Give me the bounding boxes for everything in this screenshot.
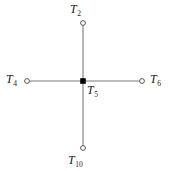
node-label-top-base: T	[70, 2, 77, 16]
node-marker-left	[25, 79, 30, 84]
node-marker-bottom	[81, 146, 86, 151]
node-label-bottom-base: T	[68, 153, 75, 167]
node-marker-group	[25, 21, 145, 151]
diagram-canvas	[0, 0, 169, 173]
node-label-right: T6	[150, 73, 161, 85]
node-label-left-base: T	[6, 72, 13, 86]
node-label-top: T2	[70, 3, 81, 15]
node-label-top-subscript: 2	[77, 9, 81, 18]
node-cross-diagram: T2 T4 T6 T10 T5	[0, 0, 169, 173]
node-label-bottom: T10	[68, 154, 82, 166]
node-label-center-subscript: 5	[94, 90, 98, 99]
node-label-right-base: T	[150, 72, 157, 86]
node-marker-right	[140, 79, 145, 84]
node-label-center-base: T	[87, 83, 94, 97]
node-label-left-subscript: 4	[13, 79, 17, 88]
node-label-left: T4	[6, 73, 17, 85]
edge-group	[30, 25, 139, 146]
node-marker-top	[81, 21, 86, 26]
node-marker-center	[80, 78, 86, 84]
node-label-bottom-subscript: 10	[75, 160, 83, 169]
node-label-center: T5	[87, 84, 98, 96]
node-label-right-subscript: 6	[157, 79, 161, 88]
